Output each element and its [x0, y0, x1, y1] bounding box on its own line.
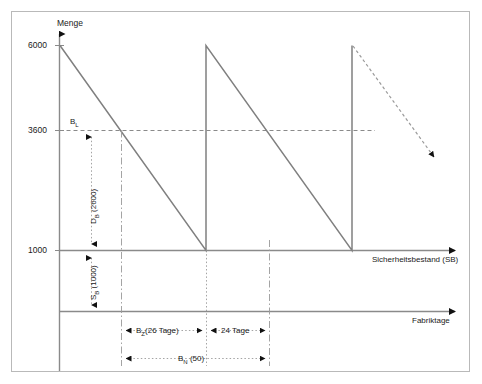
dim-label-bestellzyklus: BN (50): [178, 354, 204, 363]
forecast-consumption-line: [353, 46, 434, 157]
dim-safety-main: S: [89, 295, 98, 300]
y-tick-label-1000: 1000: [28, 245, 47, 255]
dim-safety-value: (1000): [89, 265, 98, 288]
dim-label-dispositionsbestand: DB (2600): [89, 189, 98, 224]
y-axis-title: Menge: [57, 18, 83, 28]
reorder-point-label: BL: [70, 117, 79, 126]
dim-cycle-value: (50): [190, 354, 204, 363]
diagram-canvas: Menge 6000 3600 1000 BL Sicherheitsbesta…: [0, 0, 482, 384]
dim-disposition-main: D: [89, 218, 98, 224]
y-tick-label-6000: 6000: [28, 40, 47, 50]
y-tick-label-3600: 3600: [28, 125, 47, 135]
x-axis-title-lower: Fabriktage: [412, 316, 450, 325]
dim-lead-value: (26 Tage): [145, 326, 179, 335]
x-axis-title-upper: Sicherheitsbestand (SB): [372, 255, 458, 264]
dim-disposition-value: (2600): [89, 189, 98, 212]
dim-label-beschaffungszeit: BZ(26 Tage): [136, 326, 179, 335]
inventory-level-line: [60, 46, 352, 251]
dim-disposition-sub: B: [94, 214, 100, 218]
dim-label-sicherheitsbestand: SB (1000): [89, 265, 98, 300]
reorder-point-sub: L: [75, 122, 78, 128]
dim-safety-sub: B: [94, 291, 100, 295]
dim-cycle-sub: N: [183, 359, 187, 365]
dim-label-24-tage: 24 Tage: [221, 326, 249, 335]
